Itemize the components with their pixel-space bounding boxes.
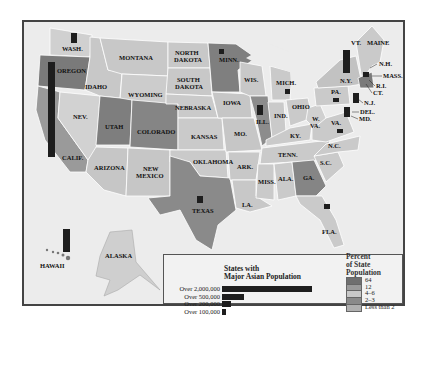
label-arizona: ARIZONA xyxy=(94,164,125,171)
label-mich: MICH. xyxy=(276,79,296,86)
label-north-dakota-1: NORTH xyxy=(175,49,199,56)
label-new-mexico-1: NEW xyxy=(143,165,159,172)
label-miss: MISS. xyxy=(258,178,276,185)
pop-bar-new-jersey xyxy=(353,93,359,103)
state-alaska xyxy=(96,230,160,296)
label-ny: N.Y. xyxy=(340,77,352,84)
label-maine: MAINE xyxy=(367,39,389,46)
label-nh: N.H. xyxy=(379,60,392,67)
label-pa: PA. xyxy=(331,88,341,95)
label-wva-1: W. xyxy=(312,115,320,122)
pop-bar-washington xyxy=(71,33,77,43)
pop-bar-illinois xyxy=(257,105,263,115)
label-nev: NEV. xyxy=(73,113,88,120)
pop-bar-florida xyxy=(324,204,330,209)
label-hawaii: HAWAII xyxy=(40,262,65,269)
legend-box: States with Major Asian Population Over … xyxy=(163,254,403,304)
label-vt: VT. xyxy=(351,39,362,46)
pop-bar-california xyxy=(48,62,55,157)
state-new-england xyxy=(356,26,384,80)
state-new-york xyxy=(316,56,362,88)
label-fla: FLA. xyxy=(322,228,337,235)
label-ky: KY. xyxy=(290,132,301,139)
label-ind: IND. xyxy=(274,112,288,119)
label-ill: ILL. xyxy=(256,118,269,125)
label-south-dakota-2: DAKOTA xyxy=(175,83,203,90)
pop-bar-pennsylvania xyxy=(333,98,339,102)
state-colorado xyxy=(130,100,178,150)
label-oklahoma: OKLAHOMA xyxy=(193,158,233,165)
label-tenn: TENN. xyxy=(278,151,298,158)
label-wash: WASH. xyxy=(62,45,83,52)
legend-bar-row: Over 100,000 xyxy=(164,308,220,316)
legend-bar-label: Over 2,000,000 xyxy=(166,285,220,292)
label-ct: CT. xyxy=(373,89,384,96)
pop-bar-maryland xyxy=(344,107,350,117)
label-md: MD. xyxy=(359,115,372,122)
pop-bar-virginia xyxy=(337,129,343,133)
label-wyoming: WYOMING xyxy=(128,91,163,98)
label-va: VA. xyxy=(331,119,342,126)
label-ala: ALA. xyxy=(278,175,294,182)
label-ohio: OHIO xyxy=(292,103,310,110)
us-map: WASH. OREGON CALIF. NEV. IDAHO MONTANA W… xyxy=(0,0,426,376)
label-texas: TEXAS xyxy=(192,207,214,214)
label-mo: MO. xyxy=(234,130,247,137)
label-colorado: COLORADO xyxy=(137,128,175,135)
label-utah: UTAH xyxy=(105,123,123,130)
label-nebraska: NEBRASKA xyxy=(175,104,211,111)
label-montana: MONTANA xyxy=(119,54,153,61)
pop-bar-hawaii xyxy=(63,229,70,252)
label-kansas: KANSAS xyxy=(191,133,218,140)
label-north-dakota-2: DAKOTA xyxy=(174,56,202,63)
pop-bar-massachusetts xyxy=(363,72,369,77)
pop-bar-new-york xyxy=(343,50,350,73)
percent-title: Percent of State Population xyxy=(346,253,381,277)
legend-bar-label: Over 500,000 xyxy=(166,293,220,300)
label-new-mexico-2: MEXICO xyxy=(136,172,163,179)
label-ri: R.I. xyxy=(376,82,387,89)
swatch-label: Less than 2 xyxy=(365,303,395,310)
legend-bar xyxy=(222,301,231,307)
legend-bar xyxy=(222,286,312,292)
label-south-dakota-1: SOUTH xyxy=(177,76,200,83)
state-utah xyxy=(96,96,132,145)
label-ark: ARK. xyxy=(237,163,253,170)
label-nj: N.J. xyxy=(364,99,376,106)
label-mass: MASS. xyxy=(383,72,403,79)
label-la: LA. xyxy=(242,201,253,208)
label-sc: S.C. xyxy=(320,159,332,166)
pop-bar-texas xyxy=(197,196,203,203)
state-arizona xyxy=(86,147,128,196)
bars-title: States with Major Asian Population xyxy=(224,265,301,281)
label-calif: CALIF. xyxy=(62,154,84,161)
pop-bar-minnesota xyxy=(219,49,224,54)
label-nc: N.C. xyxy=(328,142,341,149)
label-idaho: IDAHO xyxy=(85,83,107,90)
legend-bar xyxy=(222,294,244,300)
label-alaska: ALASKA xyxy=(105,252,132,259)
label-ga: GA. xyxy=(303,174,315,181)
label-oregon: OREGON xyxy=(57,67,86,74)
pop-bar-michigan xyxy=(285,89,290,94)
legend-bar-label: Over 100,000 xyxy=(166,308,220,315)
label-minn: MINN. xyxy=(219,56,239,63)
label-wis: WIS. xyxy=(244,76,259,83)
swatch xyxy=(346,304,362,312)
legend-bar-label: Over 200,000 xyxy=(166,300,220,307)
label-del: DEL. xyxy=(360,108,375,115)
state-florida xyxy=(296,196,344,248)
label-iowa: IOWA xyxy=(223,99,241,106)
label-wva-2: VA. xyxy=(310,122,321,129)
legend-bar xyxy=(222,309,226,315)
